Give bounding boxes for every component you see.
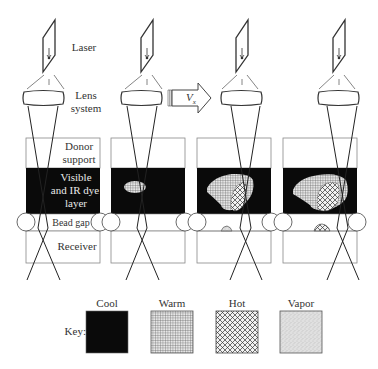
key-label-vapor: Vapor xyxy=(271,297,331,309)
laser-icon xyxy=(236,20,248,72)
key-label-warm: Warm xyxy=(142,297,202,309)
laser-icon xyxy=(141,20,153,72)
lens-icon xyxy=(23,91,64,106)
lens-label-line2: system xyxy=(66,102,106,115)
laser-icon xyxy=(333,20,345,72)
bead xyxy=(348,213,366,231)
key-legend xyxy=(86,311,322,353)
key-swatch-cool xyxy=(86,311,128,353)
laser-label: Laser xyxy=(64,41,104,54)
bead xyxy=(17,213,35,231)
key-label-cool: Cool xyxy=(77,297,137,309)
panel-4 xyxy=(274,20,366,280)
dye-label-line1: Visible xyxy=(48,171,104,184)
dye-label-line2: and IR dye xyxy=(46,184,104,197)
laser-icon xyxy=(43,20,55,72)
key-label-hot: Hot xyxy=(207,297,267,309)
lens-icon xyxy=(121,91,162,106)
bead-gap-label: Bead gap xyxy=(48,216,94,229)
key-swatch-vapor xyxy=(280,311,322,353)
velocity-label: Vx xyxy=(183,91,199,109)
bead xyxy=(274,213,292,231)
donor-label-line2: support xyxy=(56,153,102,166)
bead xyxy=(102,213,120,231)
key-title: Key: xyxy=(46,325,86,337)
key-swatch-hot xyxy=(216,311,258,353)
donor-label-line1: Donor xyxy=(56,140,102,153)
panel-2 xyxy=(102,20,194,280)
panel-3 xyxy=(188,20,280,280)
bead xyxy=(188,213,206,231)
dye-label-line3: layer xyxy=(48,197,104,210)
key-swatch-warm xyxy=(151,311,193,353)
lens-icon xyxy=(221,91,262,106)
lens-label-line1: Lens xyxy=(66,89,106,102)
receiver-label: Receiver xyxy=(52,240,102,253)
lens-icon xyxy=(318,91,359,106)
